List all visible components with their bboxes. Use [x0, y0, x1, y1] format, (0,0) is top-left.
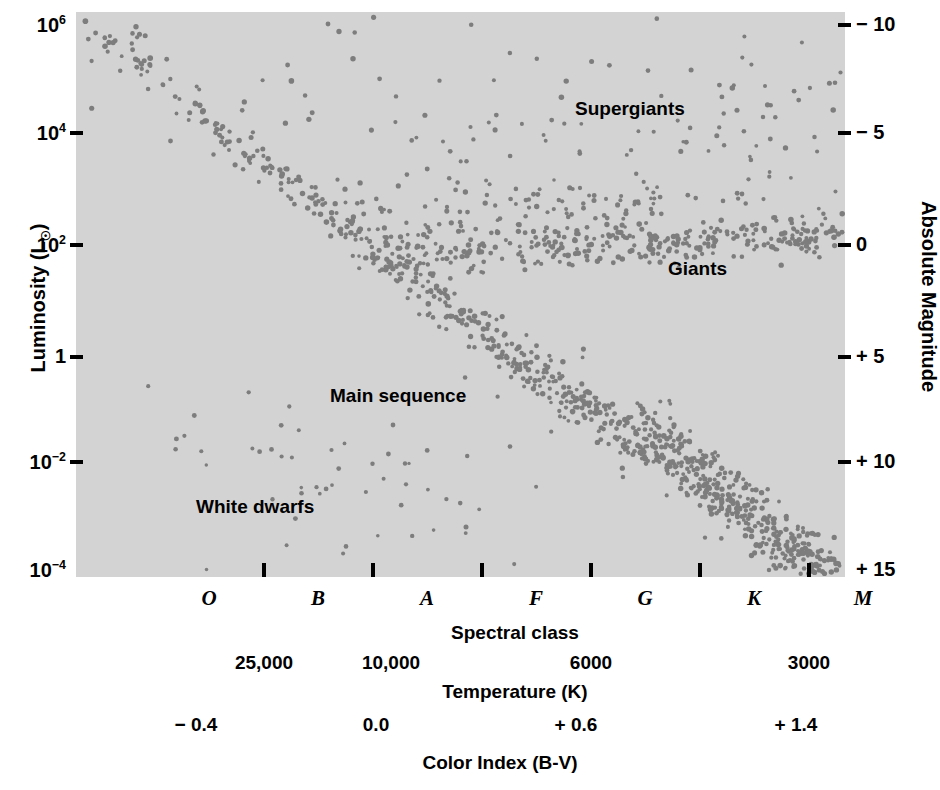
spectral-class-tick — [371, 563, 375, 577]
spectral-class-tick — [807, 563, 811, 577]
left-axis-tick — [70, 131, 83, 135]
annotation-white-dwarfs: White dwarfs — [196, 496, 314, 518]
color-index-tick-label: 0.0 — [363, 714, 389, 736]
right-axis-tick-label: + 5 — [856, 346, 884, 366]
temperature-tick-label: 3000 — [788, 652, 830, 674]
left-axis-tick-label: 106 — [37, 14, 66, 35]
spectral-class-label-o: O — [201, 586, 216, 611]
left-axis-tick — [70, 355, 83, 359]
right-axis-tick — [838, 243, 851, 247]
temperature-tick-label: 6000 — [570, 652, 612, 674]
spectral-class-tick — [480, 563, 484, 577]
left-axis-title-text: Luminosity (L☉) — [27, 224, 49, 373]
temperature-tick-label: 25,000 — [235, 652, 293, 674]
left-axis-title: Luminosity (L☉) — [27, 148, 53, 448]
color-index-tick-label: − 0.4 — [175, 714, 218, 736]
spectral-class-axis-title: Spectral class — [451, 622, 579, 644]
temperature-tick-label: 10,000 — [362, 652, 420, 674]
spectral-class-label-b: B — [311, 586, 325, 611]
temperature-axis-title: Temperature (K) — [442, 681, 587, 703]
annotation-main-sequence: Main sequence — [330, 385, 466, 407]
plot-area — [76, 12, 845, 577]
left-axis-tick-label: 104 — [37, 122, 66, 143]
right-axis-title: Absolute Magnitude — [917, 137, 940, 457]
right-axis-tick — [838, 23, 851, 27]
left-axis-tick — [70, 243, 83, 247]
spectral-class-label-a: A — [420, 586, 434, 611]
color-index-tick-label: + 0.6 — [555, 714, 598, 736]
spectral-class-tick — [589, 563, 593, 577]
right-axis-tick-label: 0 — [856, 234, 867, 254]
left-axis-tick-label: 10−2 — [30, 451, 66, 472]
right-axis-tick-label: + 10 — [856, 451, 895, 471]
right-axis-tick-label: − 10 — [856, 14, 895, 34]
spectral-class-label-g: G — [637, 586, 652, 611]
annotation-giants: Giants — [668, 258, 727, 280]
right-axis-tick-label: + 15 — [856, 559, 895, 579]
spectral-class-label-k: K — [747, 586, 761, 611]
spectral-class-label-f: F — [529, 586, 543, 611]
spectral-class-label-m: M — [854, 586, 873, 611]
left-axis-tick — [70, 460, 83, 464]
right-axis-tick — [838, 355, 851, 359]
left-axis-tick-label: 10−4 — [30, 559, 66, 580]
color-index-tick-label: + 1.4 — [775, 714, 818, 736]
right-axis-tick-label: − 5 — [856, 122, 884, 142]
left-axis-tick-label: 1 — [55, 346, 66, 366]
spectral-class-tick — [262, 563, 266, 577]
color-index-axis-title: Color Index (B-V) — [422, 752, 577, 774]
right-axis-title-text: Absolute Magnitude — [918, 201, 940, 392]
right-axis-tick — [838, 131, 851, 135]
right-axis-tick — [838, 460, 851, 464]
annotation-supergiants: Supergiants — [575, 98, 685, 120]
spectral-class-tick — [698, 563, 702, 577]
star-scatter-canvas — [76, 12, 845, 577]
